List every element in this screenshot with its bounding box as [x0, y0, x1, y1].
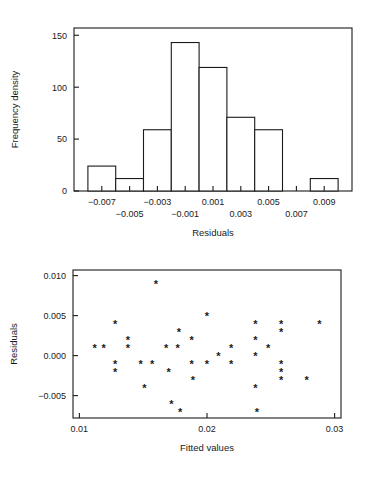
scatter-point: *: [191, 374, 196, 386]
scatter-point: *: [229, 342, 234, 354]
scatter-point: *: [253, 382, 258, 394]
scatter-point: *: [164, 342, 169, 354]
scatter-point: *: [266, 342, 271, 354]
residual-diagnostics-figure: −0.007−0.005−0.003−0.0010.0010.0030.0050…: [0, 0, 367, 485]
scatter-x-axis-title: Fitted values: [180, 442, 234, 453]
scatter-x-tick-label: 0.03: [326, 424, 344, 434]
scatter-y-tick-label: 0.010: [43, 271, 66, 281]
histogram-x-tick-label: 0.003: [230, 209, 253, 219]
scatter-chart: **************************************0.…: [0, 252, 367, 485]
histogram-x-tick-label: 0.001: [202, 197, 225, 207]
histogram-x-tick-label: −0.007: [88, 197, 116, 207]
histogram-panel: −0.007−0.005−0.003−0.0010.0010.0030.0050…: [0, 0, 367, 250]
scatter-point: *: [142, 382, 147, 394]
histogram-bar: [171, 43, 199, 191]
scatter-panel: **************************************0.…: [0, 252, 367, 485]
scatter-point: *: [126, 342, 131, 354]
histogram-y-tick-label: 0: [62, 186, 67, 196]
histogram-chart: −0.007−0.005−0.003−0.0010.0010.0030.0050…: [0, 0, 367, 250]
scatter-point: *: [229, 358, 234, 370]
scatter-point: *: [167, 366, 172, 378]
scatter-plot-frame: [73, 270, 341, 418]
scatter-y-axis-title: Residuals: [8, 323, 19, 365]
histogram-y-tick-label: 50: [57, 134, 67, 144]
scatter-x-tick-label: 0.01: [71, 424, 89, 434]
scatter-point: *: [113, 366, 118, 378]
histogram-bar: [144, 130, 172, 191]
scatter-x-tick-label: 0.02: [198, 424, 216, 434]
scatter-point: *: [253, 318, 258, 330]
scatter-point: *: [101, 342, 106, 354]
scatter-point: *: [190, 334, 195, 346]
scatter-point: *: [93, 342, 98, 354]
scatter-point: *: [154, 278, 159, 290]
scatter-point: *: [279, 374, 284, 386]
scatter-point: *: [176, 342, 181, 354]
histogram-x-tick-label: 0.007: [285, 209, 308, 219]
histogram-y-axis-title: Frequency density: [9, 70, 20, 148]
scatter-point: *: [150, 358, 155, 370]
scatter-point: *: [253, 350, 258, 362]
scatter-point: *: [205, 310, 210, 322]
scatter-point: *: [138, 358, 143, 370]
histogram-bar: [255, 130, 283, 191]
scatter-point: *: [205, 358, 210, 370]
histogram-x-tick-label: 0.009: [313, 197, 336, 207]
histogram-bar: [199, 67, 227, 191]
histogram-x-axis-title: Residuals: [192, 227, 234, 238]
scatter-point: *: [216, 350, 221, 362]
scatter-y-tick-label: −0.005: [38, 391, 66, 401]
scatter-point: *: [304, 374, 309, 386]
scatter-point: *: [113, 318, 118, 330]
histogram-x-tick-label: −0.003: [144, 197, 172, 207]
histogram-x-tick-label: 0.005: [257, 197, 280, 207]
histogram-x-tick-label: −0.001: [171, 209, 199, 219]
histogram-bar: [227, 117, 255, 191]
scatter-y-tick-label: 0.000: [43, 351, 66, 361]
scatter-point: *: [317, 318, 322, 330]
scatter-point: *: [178, 406, 183, 418]
histogram-y-tick-label: 150: [52, 31, 67, 41]
histogram-x-tick-label: −0.005: [116, 209, 144, 219]
scatter-point: *: [190, 358, 195, 370]
scatter-point: *: [255, 406, 260, 418]
histogram-y-tick-label: 100: [52, 83, 67, 93]
scatter-point: *: [253, 334, 258, 346]
scatter-point: *: [279, 326, 284, 338]
scatter-point: *: [169, 398, 174, 410]
scatter-y-tick-label: 0.005: [43, 311, 66, 321]
scatter-point: *: [177, 326, 182, 338]
